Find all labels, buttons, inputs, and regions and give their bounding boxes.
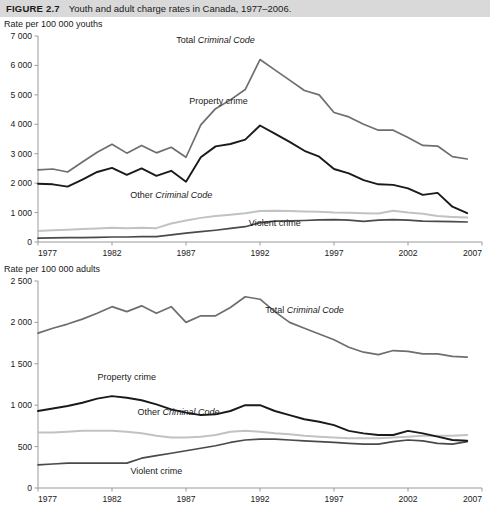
youth-plot-area: 7 0006 0005 0004 0003 0002 0001 00001977… [0, 32, 490, 264]
adult-axis-title: Rate per 100 000 adults [4, 264, 100, 274]
x-tick-label: 2007 [463, 494, 482, 504]
x-tick-label: 1992 [250, 494, 269, 504]
x-tick-label: 1997 [324, 248, 343, 258]
x-tick-label: 1977 [38, 494, 57, 504]
series-line-total-criminal-code [38, 297, 467, 357]
y-tick-label: 1 500 [10, 359, 32, 369]
x-tick-label: 1977 [38, 248, 57, 258]
y-tick-label: 2 000 [10, 317, 32, 327]
y-tick-label: 4 000 [10, 119, 32, 129]
figure-title: Youth and adult charge rates in Canada, … [69, 3, 292, 14]
series-line-property-crime [38, 125, 467, 213]
figure-number: FIGURE 2.7 [6, 3, 60, 14]
y-tick-label: 2 000 [10, 178, 32, 188]
y-tick-label: 7 000 [10, 32, 32, 41]
series-label-other-criminal-code: Other Criminal Code [138, 407, 220, 417]
series-label-total-criminal-code: Total Criminal Code [176, 35, 255, 45]
series-label-property-crime: Property crime [98, 372, 157, 382]
y-tick-label: 3 000 [10, 149, 32, 159]
y-tick-label: 5 000 [10, 90, 32, 100]
x-tick-label: 1982 [102, 494, 121, 504]
x-tick-label: 1997 [324, 494, 343, 504]
y-tick-label: 2 500 [10, 277, 32, 286]
y-tick-label: 0 [27, 237, 32, 247]
x-tick-label: 2002 [398, 494, 417, 504]
series-label-other-criminal-code: Other Criminal Code [130, 190, 212, 200]
x-tick-label: 2007 [463, 248, 482, 258]
series-line-total-criminal-code [38, 60, 467, 172]
figure-caption-bar: FIGURE 2.7 Youth and adult charge rates … [0, 0, 490, 17]
x-tick-label: 2002 [398, 248, 417, 258]
x-tick-label: 1992 [250, 248, 269, 258]
y-tick-label: 1 000 [10, 400, 32, 410]
adult-chart-panel: Rate per 100 000 adults 2 5002 0001 5001… [0, 264, 490, 510]
adult-plot-area: 2 5002 0001 5001 00050001977198219871992… [0, 277, 490, 510]
y-tick-label: 0 [27, 483, 32, 493]
series-label-violent-crime: Violent crime [130, 466, 182, 476]
series-label-property-crime: Property crime [189, 96, 248, 106]
series-label-total-criminal-code: Total Criminal Code [265, 305, 344, 315]
y-tick-label: 6 000 [10, 60, 32, 70]
y-tick-label: 500 [18, 442, 33, 452]
youth-chart-panel: Rate per 100 000 youths 7 0006 0005 0004… [0, 19, 490, 264]
x-tick-label: 1987 [176, 494, 195, 504]
series-line-property-crime [38, 396, 467, 441]
x-tick-label: 1987 [176, 248, 195, 258]
series-label-violent-crime: Violent crime [249, 218, 301, 228]
adult-chart-svg: 2 5002 0001 5001 00050001977198219871992… [0, 277, 490, 510]
youth-chart-svg: 7 0006 0005 0004 0003 0002 0001 00001977… [0, 32, 490, 264]
youth-axis-title: Rate per 100 000 youths [4, 19, 103, 29]
x-tick-label: 1982 [102, 248, 121, 258]
y-tick-label: 1 000 [10, 208, 32, 218]
series-line-violent-crime [38, 439, 467, 465]
